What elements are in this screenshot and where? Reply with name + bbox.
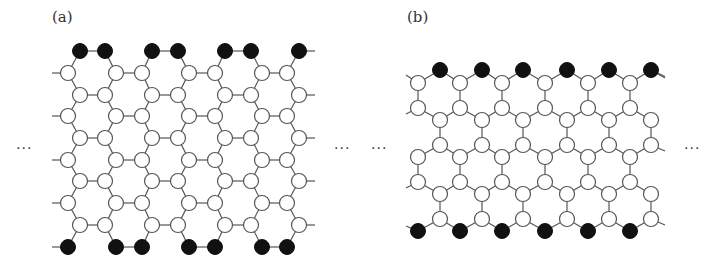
atom-open (208, 153, 223, 168)
atom-open (280, 153, 295, 168)
atom-open (98, 174, 113, 189)
atom-open (495, 101, 510, 116)
atom-open (98, 131, 113, 146)
ellipsis-left-b: ··· (371, 143, 387, 153)
atom-open (208, 109, 223, 124)
atom-open (73, 218, 88, 233)
atom-open (61, 196, 76, 211)
atom-open (538, 150, 553, 165)
edge-atom-filled (182, 240, 197, 255)
atom-open (644, 138, 659, 153)
atom-open (581, 175, 596, 190)
atom-open (602, 138, 617, 153)
atom-open (644, 212, 659, 227)
edge-atom-filled (98, 44, 113, 59)
atom-open (208, 66, 223, 81)
edge-atom-filled (292, 44, 307, 59)
edge-atom-filled (171, 44, 186, 59)
atom-open (292, 88, 307, 103)
edge-atom-filled (475, 63, 490, 78)
atom-open (218, 218, 233, 233)
atom-open (171, 88, 186, 103)
atom-open (145, 131, 160, 146)
ellipsis-right-a: ··· (334, 143, 350, 153)
atom-open (560, 113, 575, 128)
atom-open (218, 131, 233, 146)
edge-atom-filled (623, 224, 638, 239)
atom-open (602, 212, 617, 227)
atom-open (292, 218, 307, 233)
atom-open (73, 88, 88, 103)
atom-open (411, 101, 426, 116)
atom-open (255, 153, 270, 168)
atom-open (411, 76, 426, 91)
ellipsis-left-a: ··· (16, 143, 32, 153)
atom-open (644, 113, 659, 128)
edge-atom-filled (560, 63, 575, 78)
atom-open (538, 175, 553, 190)
atom-open (602, 113, 617, 128)
edge-atom-filled (602, 63, 617, 78)
atom-open (145, 174, 160, 189)
atoms (61, 44, 659, 255)
atom-open (98, 218, 113, 233)
atom-open (516, 212, 531, 227)
edge-atom-filled (581, 224, 596, 239)
atom-open (453, 150, 468, 165)
atom-open (280, 109, 295, 124)
atom-open (109, 153, 124, 168)
atom-open (560, 187, 575, 202)
atom-open (453, 76, 468, 91)
edge-atom-filled (516, 63, 531, 78)
atom-open (218, 88, 233, 103)
atom-open (475, 187, 490, 202)
edge-atom-filled (218, 44, 233, 59)
atom-open (208, 196, 223, 211)
atom-open (453, 175, 468, 190)
atom-open (109, 109, 124, 124)
atom-open (475, 138, 490, 153)
atom-open (61, 109, 76, 124)
edge-atom-filled (109, 240, 124, 255)
atom-open (495, 175, 510, 190)
atom-open (644, 187, 659, 202)
edge-atom-filled (433, 63, 448, 78)
panel-a-label: (a) (52, 8, 73, 26)
edge-atom-filled (255, 240, 270, 255)
panel-b-label: (b) (407, 8, 428, 26)
atom-open (145, 218, 160, 233)
atom-open (218, 174, 233, 189)
edge-atom-filled (411, 224, 426, 239)
atom-open (581, 101, 596, 116)
atom-open (581, 76, 596, 91)
atom-open (73, 131, 88, 146)
atom-open (495, 76, 510, 91)
atom-open (255, 196, 270, 211)
edge-atom-filled (453, 224, 468, 239)
atom-open (135, 196, 150, 211)
atom-open (182, 109, 197, 124)
atom-open (182, 196, 197, 211)
atom-open (135, 109, 150, 124)
atom-open (411, 150, 426, 165)
edge-atom-filled (495, 224, 510, 239)
atom-open (73, 174, 88, 189)
atom-open (145, 88, 160, 103)
edge-atom-filled (644, 63, 659, 78)
atom-open (433, 212, 448, 227)
atom-open (98, 88, 113, 103)
atom-open (538, 76, 553, 91)
edge-atom-filled (145, 44, 160, 59)
lattice-diagram (0, 0, 709, 268)
atom-open (538, 101, 553, 116)
edge-atom-filled (73, 44, 88, 59)
atom-open (244, 218, 259, 233)
atom-open (292, 131, 307, 146)
atom-open (171, 174, 186, 189)
atom-open (244, 174, 259, 189)
atom-open (244, 88, 259, 103)
atom-open (135, 66, 150, 81)
edge-atom-filled (61, 240, 76, 255)
edge-atom-filled (208, 240, 223, 255)
atom-open (255, 66, 270, 81)
